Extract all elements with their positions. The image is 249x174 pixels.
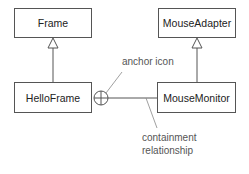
anchor-icon [94,91,108,105]
containment-annotation-line2: relationship [142,144,193,157]
generalization-arrow-icon [48,38,58,48]
class-name: Frame [38,17,68,29]
anchor-icon-annotation: anchor icon [122,55,174,68]
class-mouse-monitor: MouseMonitor [157,82,236,113]
class-name: MouseAdapter [163,17,231,29]
class-hello-frame: HelloFrame [14,82,92,113]
class-name: HelloFrame [26,92,80,104]
class-name: MouseMonitor [163,92,230,104]
class-frame: Frame [14,8,92,38]
containment-annotation-line1: containment [142,131,196,144]
class-mouse-adapter: MouseAdapter [158,8,236,38]
generalization-arrow-icon [192,38,202,48]
uml-diagram: Frame MouseAdapter HelloFrame MouseMonit… [0,0,249,174]
